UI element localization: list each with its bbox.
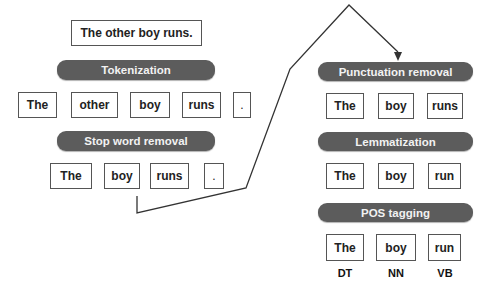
token-box: runs xyxy=(150,163,189,189)
token-box: . xyxy=(233,92,251,118)
step-stop-word-removal: Stop word removal xyxy=(57,131,215,151)
token-box: run xyxy=(428,234,461,261)
pos-tag-label: VB xyxy=(425,267,465,279)
pos-tag-label: NN xyxy=(376,267,416,279)
token-box: The xyxy=(50,163,92,189)
token-box: boy xyxy=(130,92,170,118)
step-pos-tagging: POS tagging xyxy=(318,203,473,222)
input-sentence-box: The other boy runs. xyxy=(71,20,202,46)
token-box: boy xyxy=(376,234,416,261)
token-box: The xyxy=(326,234,364,261)
token-box: . xyxy=(204,163,224,189)
step-lemmatization: Lemmatization xyxy=(318,132,473,151)
token-box: The xyxy=(18,92,57,118)
token-box: run xyxy=(428,163,461,189)
token-box: The xyxy=(326,163,364,189)
token-box: boy xyxy=(378,93,414,119)
step-punctuation-removal: Punctuation removal xyxy=(318,62,473,81)
token-box: runs xyxy=(182,92,221,118)
token-box: runs xyxy=(427,93,463,119)
token-box: boy xyxy=(378,163,414,189)
pos-tag-label: DT xyxy=(325,267,365,279)
token-box: other xyxy=(71,92,118,118)
token-box: The xyxy=(326,93,364,119)
step-tokenization: Tokenization xyxy=(57,60,215,80)
token-box: boy xyxy=(104,163,140,189)
